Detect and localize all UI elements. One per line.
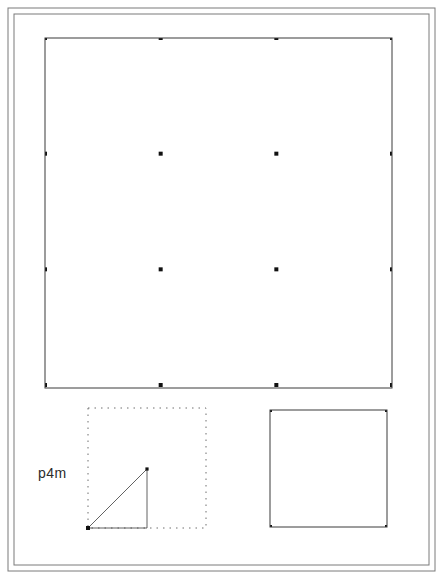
page-background	[0, 0, 443, 579]
main-pattern-clip	[12, 5, 425, 418]
plate-page: p4m	[0, 0, 443, 579]
plate-drawing	[0, 0, 443, 579]
lattice-node-marker	[274, 267, 278, 271]
lattice-node-marker	[159, 383, 163, 387]
symmetry-group-label: p4m	[38, 465, 67, 481]
lattice-node-marker	[159, 267, 163, 271]
tiled-pattern-panel	[12, 5, 425, 418]
domain-corner-node	[86, 526, 90, 530]
lattice-node-marker	[274, 383, 278, 387]
lattice-node-marker	[274, 152, 278, 156]
domain-centre-node	[145, 467, 148, 470]
lattice-node-marker	[159, 152, 163, 156]
